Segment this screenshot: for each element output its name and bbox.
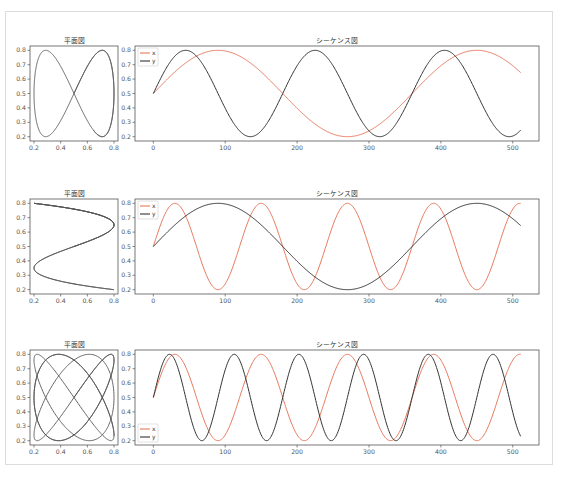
plane-curve [34, 50, 114, 136]
y-tick-label: 0.8 [121, 199, 131, 206]
y-tick-label: 0.2 [16, 286, 26, 293]
legend: xy [138, 201, 158, 219]
legend: xy [138, 48, 158, 66]
y-tick-label: 0.3 [121, 118, 131, 125]
chart-canvas: 平面図0.20.30.40.50.60.70.80.20.40.60.8シーケン… [0, 0, 561, 491]
x-tick-label: 0.8 [109, 448, 119, 455]
sequence-plot-row-2: シーケンス図0.20.30.40.50.60.70.80100200300400… [121, 190, 539, 304]
x-tick-label: 300 [363, 144, 375, 151]
y-tick-label: 0.5 [121, 90, 131, 97]
y-tick-label: 0.5 [16, 394, 26, 401]
plot-title: シーケンス図 [316, 37, 358, 45]
y-tick-label: 0.7 [121, 61, 131, 68]
y-tick-label: 0.3 [121, 271, 131, 278]
y-tick-label: 0.4 [121, 257, 131, 264]
y-tick-label: 0.2 [121, 133, 131, 140]
x-tick-label: 0.8 [109, 144, 119, 151]
x-tick-label: 0.6 [82, 144, 92, 151]
x-tick-label: 0.8 [109, 297, 119, 304]
x-tick-label: 100 [219, 297, 231, 304]
y-tick-label: 0.2 [121, 437, 131, 444]
y-tick-label: 0.8 [16, 350, 26, 357]
x-tick-label: 0 [151, 297, 155, 304]
y-tick-label: 0.5 [121, 243, 131, 250]
plot-title: 平面図 [64, 341, 85, 349]
y-tick-label: 0.7 [121, 214, 131, 221]
x-tick-label: 300 [363, 448, 375, 455]
y-tick-label: 0.7 [16, 61, 26, 68]
axes-frame [135, 350, 539, 445]
legend-label-y: y [152, 433, 156, 441]
plot-title: 平面図 [64, 190, 85, 198]
legend-label-y: y [152, 57, 156, 65]
y-tick-label: 0.2 [16, 133, 26, 140]
legend-label-y: y [152, 210, 156, 218]
y-tick-label: 0.3 [16, 271, 26, 278]
x-tick-label: 400 [435, 448, 447, 455]
x-tick-label: 0 [151, 144, 155, 151]
x-tick-label: 0.2 [29, 144, 39, 151]
y-tick-label: 0.3 [16, 422, 26, 429]
legend: xy [138, 424, 158, 442]
y-tick-label: 0.3 [16, 118, 26, 125]
plane-curve [34, 354, 114, 440]
y-tick-label: 0.6 [16, 228, 26, 235]
y-tick-label: 0.8 [121, 350, 131, 357]
axes-frame [135, 199, 539, 294]
plot-title: 平面図 [64, 37, 85, 45]
y-tick-label: 0.6 [121, 379, 131, 386]
axes-frame [135, 46, 539, 141]
plane-plot-row-2: 平面図0.20.30.40.50.60.70.80.20.40.60.8 [16, 190, 119, 304]
y-tick-label: 0.4 [121, 104, 131, 111]
y-tick-label: 0.7 [16, 214, 26, 221]
x-tick-label: 0.6 [82, 297, 92, 304]
x-tick-label: 400 [435, 144, 447, 151]
x-tick-label: 100 [219, 448, 231, 455]
x-tick-label: 0.2 [29, 448, 39, 455]
series-line-x [153, 50, 520, 136]
x-tick-label: 0.4 [56, 297, 66, 304]
y-tick-label: 0.5 [121, 394, 131, 401]
x-tick-label: 0.4 [56, 144, 66, 151]
y-tick-label: 0.2 [16, 437, 26, 444]
x-tick-label: 300 [363, 297, 375, 304]
plane-curve [34, 203, 114, 289]
plane-plot-row-3: 平面図0.20.30.40.50.60.70.80.20.40.60.8 [16, 341, 119, 455]
x-tick-label: 500 [507, 144, 519, 151]
legend-label-x: x [152, 202, 156, 209]
x-tick-label: 200 [291, 144, 303, 151]
series-line-y [153, 50, 520, 136]
y-tick-label: 0.6 [16, 75, 26, 82]
x-tick-label: 200 [291, 448, 303, 455]
y-tick-label: 0.3 [121, 422, 131, 429]
x-tick-label: 0 [151, 448, 155, 455]
x-tick-label: 0.4 [56, 448, 66, 455]
y-tick-label: 0.6 [16, 379, 26, 386]
x-tick-label: 100 [219, 144, 231, 151]
y-tick-label: 0.2 [121, 286, 131, 293]
y-tick-label: 0.6 [121, 228, 131, 235]
series-line-x [153, 203, 520, 289]
figure-caption [60, 481, 360, 491]
sequence-plot-row-1: シーケンス図0.20.30.40.50.60.70.80100200300400… [121, 37, 539, 151]
plane-plot-row-1: 平面図0.20.30.40.50.60.70.80.20.40.60.8 [16, 37, 119, 151]
y-tick-label: 0.4 [16, 408, 26, 415]
x-tick-label: 500 [507, 297, 519, 304]
plot-title: シーケンス図 [316, 341, 358, 349]
x-tick-label: 500 [507, 448, 519, 455]
plot-title: シーケンス図 [316, 190, 358, 198]
y-tick-label: 0.7 [16, 365, 26, 372]
legend-label-x: x [152, 49, 156, 56]
y-tick-label: 0.8 [16, 199, 26, 206]
y-tick-label: 0.5 [16, 243, 26, 250]
legend-label-x: x [152, 425, 156, 432]
sequence-plot-row-3: シーケンス図0.20.30.40.50.60.70.80100200300400… [121, 341, 539, 455]
x-tick-label: 0.2 [29, 297, 39, 304]
x-tick-label: 400 [435, 297, 447, 304]
x-tick-label: 200 [291, 297, 303, 304]
y-tick-label: 0.8 [121, 46, 131, 53]
y-tick-label: 0.4 [121, 408, 131, 415]
x-tick-label: 0.6 [82, 448, 92, 455]
y-tick-label: 0.8 [16, 46, 26, 53]
series-line-x [153, 354, 520, 440]
